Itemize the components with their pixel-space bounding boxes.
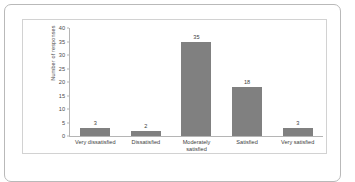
x-category-label: Very satisfied [281,139,314,146]
bar[interactable] [232,87,262,136]
y-tick-label: 20 [59,79,65,85]
y-tick-label: 5 [62,120,65,126]
x-axis-category-labels: Very dissatisfiedDissatisfiedModeratelys… [70,139,323,155]
figure-frame: Number of responses 0510152025303540 323… [4,4,341,164]
y-tick-label: 30 [59,52,65,58]
bar[interactable] [181,42,211,137]
bar-value-label: 35 [193,34,199,40]
bar-chart-panel: Number of responses 0510152025303540 323… [22,19,327,154]
bar-value-label: 2 [144,123,147,129]
x-category-label-line: Satisfied [236,139,257,146]
x-axis-line [69,136,323,137]
x-category-label-line: satisfied [183,146,211,153]
x-category-label-line: Very dissatisfied [75,139,115,146]
x-category-label: Satisfied [236,139,257,146]
x-category-label-line: Dissatisfied [132,139,161,146]
bar-value-label: 18 [244,79,250,85]
bar-slot: 3 [70,28,121,136]
bar[interactable] [283,128,313,136]
x-category-label-line: Very satisfied [281,139,314,146]
bar-slot: 18 [222,28,273,136]
x-category-label: Very dissatisfied [75,139,115,146]
bar-slot: 2 [121,28,172,136]
y-tick-label: 0 [62,133,65,139]
bar[interactable] [80,128,110,136]
bar[interactable] [131,131,161,136]
x-category-label: Moderatelysatisfied [183,139,211,153]
x-category-label-line: Moderately [183,139,211,146]
bar-slot: 35 [171,28,222,136]
bar-value-label: 3 [94,120,97,126]
y-tick-label: 25 [59,66,65,72]
x-category-label: Dissatisfied [132,139,161,146]
y-tick-label: 35 [59,39,65,45]
bar-value-label: 3 [296,120,299,126]
plot-area: 3235183 [70,28,323,136]
y-tick-label: 10 [59,106,65,112]
bar-slot: 3 [272,28,323,136]
y-tick-label: 40 [59,25,65,31]
y-tick-label: 15 [59,93,65,99]
y-axis-tick-labels: 0510152025303540 [37,28,69,136]
